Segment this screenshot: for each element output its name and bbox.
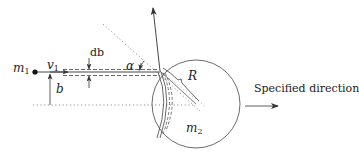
label-db: db [90, 46, 104, 59]
normal-line-dotted [103, 24, 200, 111]
label-specified-direction: Specified direction [254, 82, 359, 95]
label-b: b [56, 82, 64, 96]
scattered-arrow [153, 8, 160, 71]
label-alpha: α [126, 59, 134, 73]
scattering-diagram: m1 v1 b db α R m2 Specified direction [0, 0, 359, 163]
label-R: R [187, 69, 197, 83]
label-v1: v1 [47, 58, 59, 73]
label-m2: m2 [186, 121, 202, 136]
label-m1: m1 [13, 61, 29, 76]
alpha-arrow [140, 63, 141, 70]
particle-m1 [32, 69, 37, 74]
